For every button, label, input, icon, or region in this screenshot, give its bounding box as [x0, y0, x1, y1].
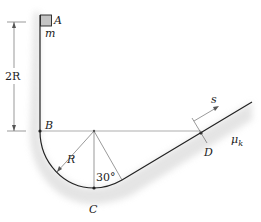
label-m: m — [45, 27, 55, 40]
dim-arrow-up — [12, 22, 16, 28]
label-mu-k: μk — [231, 133, 243, 148]
dim-arrow-down — [12, 125, 16, 131]
track-diagram: A m 2R B R 30° C s D μk — [0, 0, 261, 222]
point-B — [38, 129, 41, 132]
label-B: B — [44, 119, 53, 132]
radius-line — [57, 131, 94, 172]
label-s: s — [211, 93, 217, 106]
label-2R: 2R — [5, 70, 21, 83]
point-C — [92, 186, 95, 189]
block-A — [41, 15, 52, 26]
label-R: R — [66, 153, 75, 166]
s-arrow-head — [213, 106, 219, 111]
s-arrow-line — [194, 108, 216, 121]
ground-shading — [30, 12, 252, 204]
label-angle: 30° — [96, 171, 116, 184]
label-D: D — [203, 146, 213, 159]
label-A: A — [53, 14, 62, 27]
label-C: C — [89, 203, 98, 216]
